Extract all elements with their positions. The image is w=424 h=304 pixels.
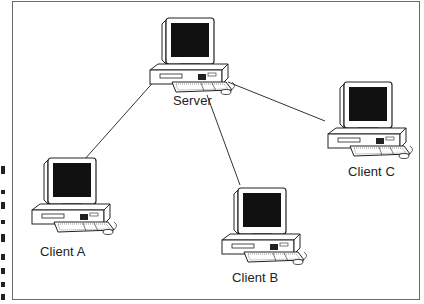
server-node [146, 16, 236, 96]
client-b-label: Client B [232, 270, 278, 285]
client-b-node [218, 186, 308, 266]
desktop-computer-icon [324, 80, 414, 160]
client-c-node [324, 80, 414, 160]
client-c-label: Client C [348, 164, 395, 179]
desktop-computer-icon [28, 156, 118, 236]
link-server-client-c [228, 82, 325, 121]
client-a-label: Client A [40, 244, 86, 259]
desktop-computer-icon [146, 16, 236, 96]
server-label: Server [173, 93, 212, 108]
client-a-node [28, 156, 118, 236]
link-server-client-b [207, 95, 240, 185]
desktop-computer-icon [218, 186, 308, 266]
